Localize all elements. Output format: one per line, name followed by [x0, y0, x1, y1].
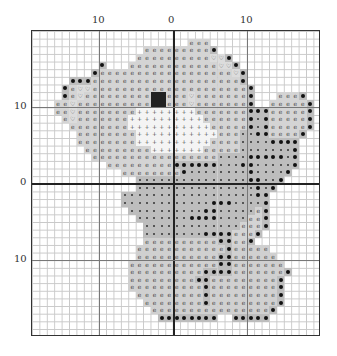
stitch-cell [203, 299, 210, 307]
stitch-cell: e [269, 276, 276, 284]
stitch-cell: e [225, 130, 232, 138]
stitch-cell: e [77, 115, 84, 123]
stitch-cell [143, 192, 150, 200]
top-label-right-10: 10 [240, 14, 253, 25]
stitch-cell: e [121, 153, 128, 161]
stitch-cell: e [143, 238, 150, 246]
stitch-cell: e [255, 306, 262, 314]
stitch-cell: + [180, 146, 187, 154]
stitch-cell [255, 138, 262, 146]
stitch-cell: e [203, 146, 210, 154]
stitch-cell [195, 207, 202, 215]
stitch-cell: e [121, 85, 128, 93]
stitch-cell [188, 222, 195, 230]
stitch-cell: + [136, 123, 143, 131]
stitch-cell: + [158, 108, 165, 116]
stitch-cell [166, 192, 173, 200]
stitch-cell: e [151, 291, 158, 299]
stitch-cell [188, 161, 195, 169]
stitch-cell [218, 261, 225, 269]
stitch-cell: e [166, 85, 173, 93]
stitch-cell [232, 199, 239, 207]
stitch-cell [232, 184, 239, 192]
stitch-cell [225, 268, 232, 276]
stitch-cell [284, 169, 291, 177]
stitch-cell [292, 153, 299, 161]
stitch-cell: e [247, 291, 254, 299]
stitch-cell: + [136, 108, 143, 116]
stitch-cell [151, 207, 158, 215]
stitch-cell: e [143, 54, 150, 62]
stitch-cell [262, 146, 269, 154]
stitch-cell: e [292, 123, 299, 131]
stitch-cell: e [255, 215, 262, 223]
stitch-cell [225, 222, 232, 230]
stitch-cell: e [158, 306, 165, 314]
stitch-cell [277, 283, 284, 291]
stitch-cell [158, 184, 165, 192]
stitch-cell: e [210, 108, 217, 116]
stitch-cell: e [284, 92, 291, 100]
stitch-cell [232, 161, 239, 169]
stitch-cell: e [77, 108, 84, 116]
stitch-cell: e [188, 299, 195, 307]
stitch-cell [225, 169, 232, 177]
stitch-cell: + [166, 138, 173, 146]
stitch-cell [225, 54, 232, 62]
stitch-cell: + [136, 115, 143, 123]
stitch-cell [218, 199, 225, 207]
stitch-cell [247, 92, 254, 100]
stitch-cell: e [158, 268, 165, 276]
stitch-cell: e [247, 222, 254, 230]
stitch-cell: e [218, 146, 225, 154]
stitch-cell: e [255, 261, 262, 269]
stitch-cell [292, 138, 299, 146]
stitch-cell: + [151, 130, 158, 138]
stitch-cell [188, 192, 195, 200]
top-label-left-10: 10 [92, 14, 105, 25]
stitch-cell: e [180, 85, 187, 93]
stitch-cell: e [166, 46, 173, 54]
stitch-cell: e [121, 161, 128, 169]
stitch-cell: e [299, 108, 306, 116]
stitch-cell: e [203, 54, 210, 62]
stitch-cell: e [232, 268, 239, 276]
stitch-cell: e [99, 77, 106, 85]
stitch-cell [136, 199, 143, 207]
stitch-cell: e [232, 306, 239, 314]
stitch-cell: e [225, 283, 232, 291]
stitch-cell: ♡ [218, 54, 225, 62]
stitch-cell [136, 184, 143, 192]
stitch-cell [136, 207, 143, 215]
stitch-cell: e [136, 85, 143, 93]
stitch-cell: e [143, 245, 150, 253]
stitch-cell: e [106, 161, 113, 169]
stitch-cell [69, 77, 76, 85]
stitch-cell: + [166, 123, 173, 131]
stitch-cell: e [225, 123, 232, 131]
top-label-0: 0 [168, 14, 174, 25]
stitch-cell: e [136, 261, 143, 269]
stitch-cell: e [114, 153, 121, 161]
stitch-cell: e [136, 283, 143, 291]
stitch-cell: + [136, 138, 143, 146]
stitch-cell: e [255, 207, 262, 215]
stitch-cell: + [151, 146, 158, 154]
stitch-cell: + [195, 115, 202, 123]
stitch-cell: e [143, 46, 150, 54]
stitch-cell: e [106, 115, 113, 123]
stitch-cell [255, 230, 262, 238]
stitch-cell: e [84, 92, 91, 100]
stitch-cell [277, 161, 284, 169]
stitch-cell: e [195, 299, 202, 307]
stitch-cell: e [166, 261, 173, 269]
stitch-cell: e [210, 77, 217, 85]
stitch-cell [203, 283, 210, 291]
stitch-cell [277, 146, 284, 154]
stitch-cell [225, 238, 232, 246]
stitch-cell: + [166, 108, 173, 116]
stitch-cell: e [284, 108, 291, 116]
stitch-cell: e [195, 77, 202, 85]
stitch-cell: e [114, 130, 121, 138]
stitch-cell [284, 161, 291, 169]
